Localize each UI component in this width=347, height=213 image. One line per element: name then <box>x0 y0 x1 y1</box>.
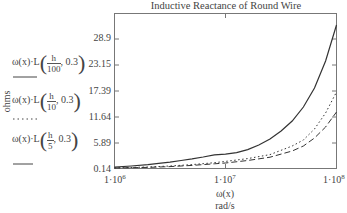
plot-area <box>0 0 347 213</box>
series-dotted <box>115 92 337 168</box>
y-ticks <box>115 39 337 143</box>
plot-frame <box>115 14 337 169</box>
